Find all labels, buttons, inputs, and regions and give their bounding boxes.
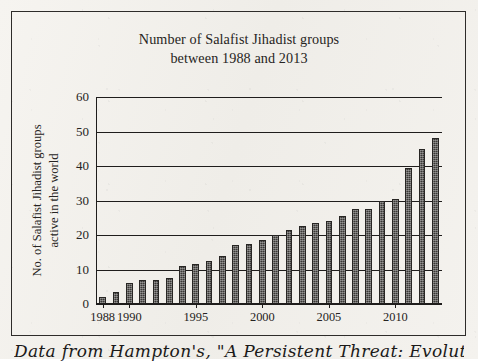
y-tick-label-60: 60 — [76, 89, 89, 105]
x-tick-label-1988: 1988 — [90, 310, 115, 325]
chart-title-line-1: Number of Salafist Jihadist groups — [0, 30, 478, 49]
bar-2000 — [259, 240, 266, 304]
bar-1996 — [206, 261, 213, 304]
bar-1999 — [246, 244, 253, 304]
bar-1998 — [232, 245, 239, 304]
bar-2001 — [272, 235, 279, 304]
bar-1990 — [126, 283, 133, 304]
bar-series — [96, 97, 442, 304]
bar-2005 — [326, 221, 333, 304]
y-tick-label-0: 0 — [83, 296, 90, 312]
bar-2008 — [365, 209, 372, 304]
bar-2007 — [352, 209, 359, 304]
y-tick-label-40: 40 — [76, 158, 89, 174]
x-tick-label-2010: 2010 — [383, 310, 408, 325]
x-tick-label-1995: 1995 — [183, 310, 208, 325]
gridline-0 — [96, 304, 442, 305]
bar-2003 — [299, 226, 306, 304]
bar-1992 — [153, 280, 160, 304]
chart-title: Number of Salafist Jihadist groups betwe… — [0, 30, 478, 68]
bar-1997 — [219, 256, 226, 304]
x-tick-mark-2010 — [395, 304, 396, 308]
y-tick-label-50: 50 — [76, 124, 89, 140]
bar-2002 — [286, 230, 293, 304]
x-tick-mark-1995 — [196, 304, 197, 308]
bar-2012 — [419, 149, 426, 304]
x-tick-mark-2000 — [262, 304, 263, 308]
x-tick-label-2005: 2005 — [316, 310, 341, 325]
bar-1994 — [179, 266, 186, 304]
bar-2004 — [312, 223, 319, 304]
bar-1991 — [139, 280, 146, 304]
y-tick-label-10: 10 — [76, 262, 89, 278]
x-tick-mark-1988 — [103, 304, 104, 308]
figure-caption-note: Data from Hampton's, "A Persistent Threa… — [14, 341, 464, 361]
x-tick-label-1990: 1990 — [117, 310, 142, 325]
chart-title-line-2: between 1988 and 2013 — [0, 49, 478, 68]
bar-1995 — [192, 264, 199, 304]
bar-2013 — [432, 138, 439, 304]
bar-2006 — [339, 216, 346, 304]
x-axis-line — [96, 303, 442, 304]
bar-2011 — [405, 168, 412, 304]
bar-2009 — [379, 201, 386, 305]
x-tick-label-2000: 2000 — [250, 310, 275, 325]
plot-area: 0102030405060 198819901995200020052010 — [96, 97, 442, 304]
y-tick-label-20: 20 — [76, 227, 89, 243]
x-tick-mark-2005 — [329, 304, 330, 308]
bar-2010 — [392, 199, 399, 304]
y-axis-title: No. of Salafist Jihadist groups active i… — [26, 97, 66, 304]
y-axis-title-line-1: No. of Salafist Jihadist groups — [29, 124, 46, 276]
y-axis-title-line-2: active in the world — [46, 153, 63, 247]
y-tick-label-30: 30 — [76, 193, 89, 209]
x-tick-mark-1990 — [129, 304, 130, 308]
bar-1993 — [166, 278, 173, 304]
